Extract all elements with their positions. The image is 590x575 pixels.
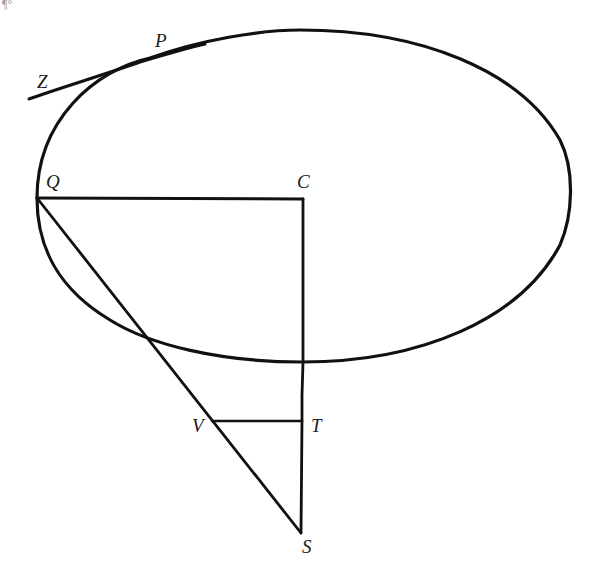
corner-fragment-text: ¶° (2, 0, 12, 11)
label-p: P (154, 30, 167, 51)
label-v: V (192, 415, 206, 436)
segment-cs (301, 199, 303, 533)
label-t: T (311, 415, 323, 436)
segment-qs (37, 198, 301, 533)
label-s: S (302, 536, 312, 557)
label-q: Q (46, 171, 60, 192)
segment-qc (37, 198, 303, 199)
ellipse-diagram: ¶° P Z Q C V T S (0, 0, 590, 575)
label-c: C (297, 171, 310, 192)
label-z: Z (37, 71, 48, 92)
